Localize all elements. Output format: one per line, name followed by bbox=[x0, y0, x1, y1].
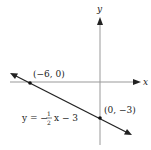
equation-lhs: y = − bbox=[21, 113, 48, 123]
point2-label: (0, −3) bbox=[104, 105, 136, 115]
equation-denominator: 2 bbox=[47, 119, 51, 126]
point-y-intercept bbox=[98, 116, 102, 120]
y-axis-label: y bbox=[96, 4, 103, 14]
x-axis-arrow-icon bbox=[133, 79, 141, 85]
x-axis-label: x bbox=[143, 77, 148, 87]
y-axis-arrow-icon bbox=[97, 17, 103, 25]
equation-rhs: x − 3 bbox=[54, 113, 78, 123]
graph: x y (−6, 0) (0, −3) y = − 1 2 x − 3 bbox=[0, 0, 151, 150]
point1-label: (−6, 0) bbox=[33, 69, 65, 79]
point-x-intercept bbox=[28, 81, 32, 85]
equation-numerator: 1 bbox=[47, 110, 51, 117]
